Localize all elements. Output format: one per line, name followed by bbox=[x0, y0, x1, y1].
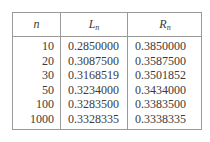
header-n: n bbox=[13, 13, 60, 36]
cell-left-sum: 0.3328335 bbox=[68, 112, 119, 127]
header-r-label: R bbox=[159, 17, 166, 31]
cell-right-sum: 0.3383500 bbox=[135, 97, 186, 112]
header-r-subscript: n bbox=[167, 23, 171, 32]
cell-n: 100 bbox=[13, 97, 54, 112]
header-divider bbox=[13, 36, 201, 37]
cell-right-sum: 0.3338335 bbox=[135, 112, 186, 127]
cell-left-sum: 0.3283500 bbox=[68, 97, 119, 112]
table-row: 20 0.3087500 0.3587500 bbox=[13, 54, 201, 69]
table-row: 30 0.3168519 0.3501852 bbox=[13, 68, 201, 83]
cell-left-sum: 0.3087500 bbox=[68, 54, 119, 69]
cell-n: 50 bbox=[13, 83, 54, 98]
cell-right-sum: 0.3850000 bbox=[135, 39, 186, 54]
table-row: 10 0.2850000 0.3850000 bbox=[13, 39, 201, 54]
cell-right-sum: 0.3501852 bbox=[135, 68, 186, 83]
cell-n: 10 bbox=[13, 39, 54, 54]
cell-n: 1000 bbox=[13, 112, 54, 127]
header-right-sum: Rn bbox=[128, 13, 202, 36]
cell-left-sum: 0.3168519 bbox=[68, 68, 119, 83]
table-row: 50 0.3234000 0.3434000 bbox=[13, 83, 201, 98]
riemann-sum-table: n Ln Rn 10 0.2850000 0.3850000 20 0.3087… bbox=[12, 12, 202, 130]
table-row: 100 0.3283500 0.3383500 bbox=[13, 97, 201, 112]
cell-n: 30 bbox=[13, 68, 54, 83]
header-n-label: n bbox=[34, 17, 40, 31]
header-l-subscript: n bbox=[95, 23, 99, 32]
cell-left-sum: 0.3234000 bbox=[68, 83, 119, 98]
header-left-sum: Ln bbox=[61, 13, 127, 36]
cell-left-sum: 0.2850000 bbox=[68, 39, 119, 54]
table-row: 1000 0.3328335 0.3338335 bbox=[13, 112, 201, 127]
table-body: 10 0.2850000 0.3850000 20 0.3087500 0.35… bbox=[13, 39, 201, 126]
cell-n: 20 bbox=[13, 54, 54, 69]
cell-right-sum: 0.3434000 bbox=[135, 83, 186, 98]
cell-right-sum: 0.3587500 bbox=[135, 54, 186, 69]
